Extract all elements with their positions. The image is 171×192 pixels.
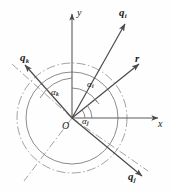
label-x-axis: x: [158, 119, 162, 129]
label-alpha-i-sub: i: [92, 83, 94, 89]
label-q-i-sub: i: [125, 12, 127, 19]
label-vector-q-k: qk: [20, 52, 29, 64]
label-x-text: x: [158, 118, 162, 129]
label-y-text: y: [77, 7, 81, 18]
label-alpha-j-sub: j: [87, 120, 89, 126]
label-q-i-base: q: [119, 6, 125, 18]
label-angle-alpha-k: αk: [51, 88, 59, 98]
label-angle-alpha-i: αi: [87, 80, 93, 90]
label-alpha-k-sub: k: [56, 91, 59, 97]
label-angle-alpha-j: αj: [82, 117, 88, 127]
q-j-extension-line: [12, 64, 72, 118]
label-vector-r: r: [135, 53, 139, 64]
diagram-canvas: [0, 0, 171, 192]
label-vector-q-i: qi: [119, 7, 127, 19]
label-y-axis: y: [77, 8, 81, 18]
label-vector-q-j: qj: [128, 171, 136, 183]
label-q-k-base: q: [20, 51, 26, 63]
label-r-base: r: [135, 52, 139, 64]
vector-angle-diagram: qi r qk qj y x O αi αk αj: [0, 0, 171, 192]
label-q-j-sub: j: [134, 176, 136, 183]
vector-q-k: [25, 65, 72, 118]
label-q-j-base: q: [128, 170, 134, 182]
vector-r: [72, 64, 139, 118]
angle-tick-r: [95, 99, 99, 104]
label-origin-text: O: [62, 120, 69, 131]
label-origin: O: [62, 121, 69, 131]
label-q-k-sub: k: [26, 57, 29, 64]
